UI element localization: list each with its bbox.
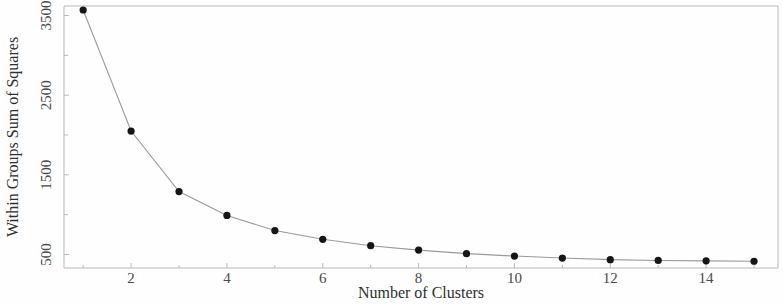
data-point [271, 227, 278, 234]
data-point [559, 254, 566, 261]
data-point [127, 127, 134, 134]
data-point [703, 257, 710, 264]
x-tick-label: 14 [699, 270, 715, 286]
data-point [80, 6, 87, 13]
data-point [750, 258, 757, 265]
data-point [607, 256, 614, 263]
x-tick-label: 6 [319, 270, 327, 286]
elbow-plot: 500150025003500 2468101214 Number of Clu… [0, 0, 783, 306]
x-tick-label: 4 [223, 270, 231, 286]
y-tick-label: 2500 [38, 80, 54, 110]
data-point [415, 246, 422, 253]
data-point [655, 257, 662, 264]
data-point [367, 242, 374, 249]
x-tick-label: 10 [507, 270, 522, 286]
y-tick-label: 3500 [38, 1, 54, 31]
data-point [463, 250, 470, 257]
data-point [511, 252, 518, 259]
y-tick-label: 1500 [38, 160, 54, 190]
x-axis-title: Number of Clusters [358, 284, 484, 301]
data-point [319, 236, 326, 243]
y-tick-label: 500 [38, 243, 54, 266]
data-point [223, 212, 230, 219]
chart-screenshot: 500150025003500 2468101214 Number of Clu… [0, 0, 783, 306]
x-tick-label: 2 [127, 270, 135, 286]
y-axis-title: Within Groups Sum of Squares [4, 37, 22, 237]
x-tick-label: 12 [603, 270, 618, 286]
data-point [175, 188, 182, 195]
